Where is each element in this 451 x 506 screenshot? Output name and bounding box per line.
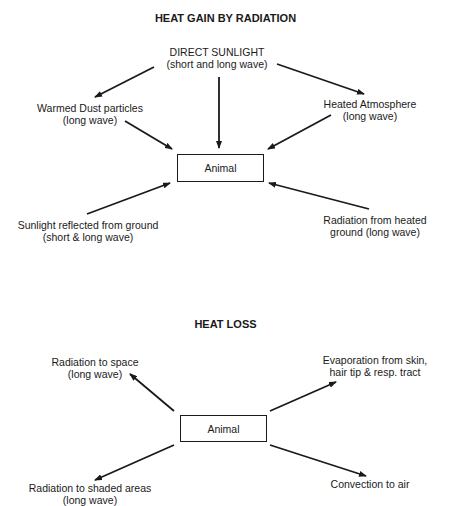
arrow-direct-to-dust [95, 67, 154, 97]
arrow-animal-to-convection [270, 445, 366, 476]
label-direct-sunlight: DIRECT SUNLIGHT (short and long wave) [150, 46, 284, 70]
label-warmed-dust: Warmed Dust particles (long wave) [20, 102, 160, 126]
label-heated-atmosphere: Heated Atmosphere (long wave) [310, 98, 430, 122]
label-radiation-to-space: Radiation to space (long wave) [40, 356, 150, 380]
animal-box-loss: Animal [180, 415, 267, 442]
label-convection-to-air: Convection to air [315, 478, 425, 490]
heat-loss-title: HEAT LOSS [0, 318, 451, 330]
label-evaporation: Evaporation from skin, hair tip & resp. … [310, 354, 440, 378]
arrow-direct-to-atmosphere [277, 64, 364, 94]
animal-box-gain: Animal [177, 154, 264, 182]
label-sunlight-reflected: Sunlight reflected from ground (short & … [8, 219, 168, 243]
label-radiation-heated-ground: Radiation from heated ground (long wave) [310, 214, 440, 238]
arrow-animal-to-evaporation [270, 382, 336, 411]
arrow-reflected-to-animal [87, 183, 170, 214]
heat-gain-title: HEAT GAIN BY RADIATION [0, 12, 451, 24]
arrow-animal-to-shaded [95, 445, 174, 480]
arrow-ground-to-animal [269, 183, 369, 209]
label-radiation-to-shaded: Radiation to shaded areas (long wave) [20, 482, 160, 506]
